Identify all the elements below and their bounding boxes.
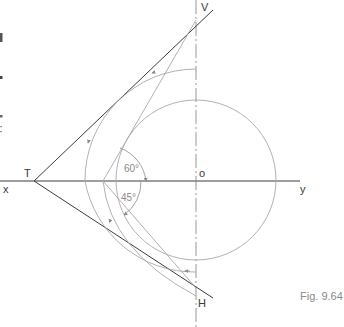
figure-caption: Fig. 9.64 (300, 290, 343, 302)
arrow-upper-arc (152, 72, 155, 73)
tangent-arc-lower (103, 181, 196, 296)
angle-label-60: 60° (124, 163, 139, 174)
label-T: T (24, 167, 31, 179)
construction-line-lower (103, 181, 196, 288)
angle-label-45: 45° (121, 192, 136, 203)
cropped-text-fragments (0, 33, 3, 132)
construction-line-upper (103, 20, 196, 181)
label-o: o (199, 167, 205, 179)
label-H: H (198, 297, 206, 309)
diagram-figure: x y T V H o 60° 45° Fig. 9.64 (0, 0, 344, 327)
label-x: x (3, 183, 9, 195)
label-V: V (201, 1, 209, 13)
label-y: y (300, 183, 306, 195)
arrow-lower-left-arc (109, 219, 111, 222)
arrow-left-arc (88, 140, 89, 143)
